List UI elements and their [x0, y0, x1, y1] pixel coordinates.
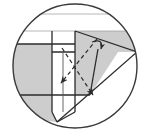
clipped-content — [0, 0, 150, 137]
geometric-diagram — [0, 0, 150, 137]
region-top-white-square — [52, 31, 75, 52]
figure-container — [0, 0, 150, 137]
